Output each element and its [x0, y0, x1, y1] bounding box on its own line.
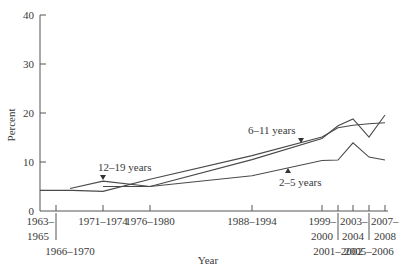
y-tick-label: 10: [23, 156, 35, 168]
svg-text:1971–1974: 1971–1974: [78, 215, 128, 227]
svg-text:2008: 2008: [374, 230, 397, 242]
series-lines: [40, 115, 385, 191]
series-label-12-19: 12–19 years: [98, 161, 151, 173]
svg-text:1976–1980: 1976–1980: [125, 215, 175, 227]
y-ticks: 40 30 20 10 0: [23, 9, 46, 217]
y-axis-title: Percent: [5, 109, 17, 142]
line-chart: 40 30 20 10 0 Percent 1963– 1965 1971–19…: [0, 0, 419, 269]
y-tick-label: 40: [23, 9, 35, 21]
svg-text:2000: 2000: [311, 230, 334, 242]
svg-text:2004: 2004: [342, 230, 365, 242]
series-line: [70, 115, 385, 189]
series-line: [40, 123, 385, 192]
svg-text:2007–: 2007–: [371, 215, 399, 227]
y-tick-label: 20: [23, 107, 35, 119]
arrow-down-icon: [100, 175, 106, 180]
svg-text:1963–: 1963–: [27, 215, 55, 227]
svg-text:1988–1994: 1988–1994: [227, 215, 277, 227]
y-tick-label: 30: [23, 58, 35, 70]
svg-text:2005–2006: 2005–2006: [344, 245, 394, 257]
x-axis-title: Year: [198, 254, 219, 266]
series-label-2-5: 2–5 years: [279, 176, 321, 188]
svg-text:1999–: 1999–: [309, 215, 337, 227]
svg-text:1965: 1965: [27, 230, 50, 242]
x-tick-labels: 1963– 1965 1971–1974 1976–1980 1988–1994…: [27, 215, 400, 257]
svg-text:1966–1970: 1966–1970: [45, 245, 95, 257]
svg-text:2003–: 2003–: [340, 215, 368, 227]
series-label-6-11: 6–11 years: [248, 124, 296, 136]
